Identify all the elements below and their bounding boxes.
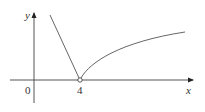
x-axis-label: x <box>185 84 191 96</box>
y-axis-label: y <box>24 9 30 21</box>
origin-label: 0 <box>25 84 31 96</box>
right-branch-curve <box>81 32 185 78</box>
function-graph: y x 0 4 <box>0 0 205 112</box>
left-branch-line <box>50 15 79 78</box>
tick-label-4: 4 <box>77 84 83 96</box>
open-circle-point <box>78 78 82 82</box>
